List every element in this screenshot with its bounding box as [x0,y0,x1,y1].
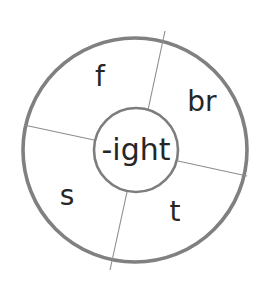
spoke-top-right [148,31,165,110]
spoke-right [178,161,247,176]
spoke-left [24,125,94,140]
segment-label-br: br [187,85,217,118]
spoke-bottom [110,192,127,270]
word-family-wheel-diagram: f br t s -ight [0,0,271,299]
center-word-family-label: -ight [102,132,171,167]
segment-label-s: s [60,179,75,212]
wheel-svg: f br t s -ight [0,0,271,299]
segment-label-f: f [95,60,106,93]
segment-label-t: t [170,195,181,228]
